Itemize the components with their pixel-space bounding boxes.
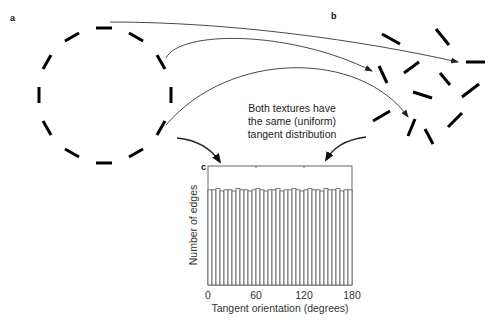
histogram-bar <box>260 190 264 285</box>
histogram-bar <box>320 191 324 285</box>
histogram-bar <box>232 191 236 285</box>
histogram-bar <box>316 190 320 285</box>
histogram-bar <box>224 190 228 285</box>
caption: Both textures have the same (uniform) ta… <box>248 102 337 140</box>
histogram-bar <box>212 190 216 285</box>
histogram-bar <box>276 189 280 285</box>
histogram-chart: Number of edges 0 60 120 180 Tangent ori… <box>187 166 361 314</box>
x-tick-180: 180 <box>343 289 361 301</box>
panel-label-c: c <box>201 162 206 172</box>
panel-label-a: a <box>10 13 16 23</box>
histogram-bar <box>312 190 316 285</box>
histogram-bar <box>304 190 308 285</box>
dashed-circle-texture <box>39 28 171 163</box>
x-tick-120: 120 <box>295 289 313 301</box>
panel-label-b: b <box>331 11 337 21</box>
histogram-bar <box>308 189 312 285</box>
histogram-bar <box>348 190 352 285</box>
histogram-bar <box>216 189 220 285</box>
histogram-bar <box>256 189 260 285</box>
histogram-bar <box>220 191 224 285</box>
histogram-bar <box>208 190 212 285</box>
caption-line-1: Both textures have <box>248 102 336 114</box>
histogram-bar <box>284 190 288 285</box>
y-axis-label: Number of edges <box>187 185 199 266</box>
arrow-b-to-histogram <box>326 137 366 160</box>
random-segment-texture <box>373 29 485 144</box>
histogram-bar <box>288 190 292 285</box>
histogram-bar <box>280 191 284 285</box>
histogram-bar <box>252 190 256 285</box>
histogram-bar <box>340 191 344 285</box>
figure-canvas: a b c Both textures <box>0 0 499 321</box>
histogram-bar <box>240 190 244 285</box>
histogram-bar <box>264 191 268 285</box>
histogram-bar <box>236 189 240 285</box>
caption-line-3: tangent distribution <box>248 128 337 140</box>
x-tick-0: 0 <box>205 289 211 301</box>
histogram-bar <box>344 190 348 285</box>
histogram-bar <box>244 190 248 285</box>
histogram-bar <box>336 189 340 285</box>
histogram-bar <box>300 191 304 285</box>
histogram-bar <box>324 189 328 285</box>
histogram-bars <box>208 189 352 285</box>
arrow-top-to-horizontal <box>110 22 458 62</box>
histogram-bar <box>228 190 232 285</box>
histogram-bar <box>248 191 252 285</box>
histogram-bar <box>296 190 300 285</box>
caption-line-2: the same (uniform) <box>248 115 336 127</box>
arrow-a-to-histogram <box>177 138 220 162</box>
histogram-bar <box>328 190 332 285</box>
x-axis-label: Tangent orientation (degrees) <box>211 302 348 314</box>
histogram-bar <box>292 189 296 285</box>
arrow-right-upper-to-segment <box>166 38 372 71</box>
histogram-bar <box>272 190 276 285</box>
histogram-bar <box>332 190 336 285</box>
x-tick-60: 60 <box>250 289 262 301</box>
histogram-bar <box>268 190 272 285</box>
